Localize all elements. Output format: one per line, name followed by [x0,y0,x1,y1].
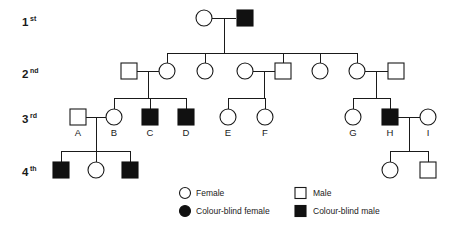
individual-g1-affected-male-symbol[interactable] [237,10,253,26]
individual-D-symbol[interactable] [178,109,194,125]
pedigree-chart: 1 st 2 nd 3 rd 4 th [0,0,463,230]
individual-g2-male-child3-symbol[interactable] [275,63,291,79]
legend-item-colour-blind-female: Colour-blind female [180,206,270,217]
generation-label-3: 3 rd [22,112,37,125]
generation-label-3-number: 3 [22,113,28,125]
legend-item-male: Male [295,188,332,199]
generation-label-1-number: 1 [22,16,29,28]
legend-item-female-label: Female [196,188,225,198]
label-E: E [225,127,231,138]
legend-item-colour-blind-female-label: Colour-blind female [196,206,270,216]
pedigree-individuals [53,10,436,178]
label-C: C [147,127,154,138]
legend: Female Colour-blind female Male Colour-b… [180,188,380,217]
individual-g4-affected-male1-symbol[interactable] [53,162,69,178]
generation-label-4-number: 4 [22,166,29,178]
generation-label-4: 4 th [22,165,37,178]
individual-g4-affected-male2-symbol[interactable] [122,162,138,178]
pedigree-links [61,18,428,162]
individual-g2-female-spouse-mid-symbol[interactable] [237,63,253,79]
individual-g2-male-spouse-right-symbol[interactable] [388,63,404,79]
individual-C-symbol[interactable] [142,109,158,125]
filled-circle-icon [180,206,191,217]
legend-item-colour-blind-male: Colour-blind male [295,206,380,217]
individual-g2-female-child2-symbol[interactable] [197,63,213,79]
individual-g1-female-symbol[interactable] [196,10,212,26]
label-F: F [262,127,268,138]
legend-item-male-label: Male [313,188,332,198]
individual-H-symbol[interactable] [382,109,398,125]
open-square-icon [295,188,306,199]
label-I: I [427,127,430,138]
label-H: H [387,127,394,138]
individual-g4-male3-symbol[interactable] [420,162,436,178]
individual-A-symbol[interactable] [70,109,86,125]
open-circle-icon [180,188,191,199]
generation-label-1-suffix: st [30,15,37,22]
legend-item-female: Female [180,188,225,199]
filled-square-icon [295,206,306,217]
individual-id-labels: A B C D E F G H I [75,127,429,138]
generation-labels: 1 st 2 nd 3 rd 4 th [22,15,39,178]
individual-g2-male-spouse-left-symbol[interactable] [121,63,137,79]
generation-label-1: 1 st [22,15,37,28]
label-D: D [183,127,190,138]
individual-E-symbol[interactable] [220,109,236,125]
label-B: B [111,127,117,138]
individual-g4-female1-symbol[interactable] [88,162,104,178]
individual-g2-female-child1-symbol[interactable] [159,63,175,79]
label-A: A [75,127,82,138]
individual-I-symbol[interactable] [420,109,436,125]
generation-label-3-suffix: rd [30,112,37,119]
individual-G-symbol[interactable] [345,109,361,125]
label-G: G [349,127,356,138]
generation-label-4-suffix: th [30,165,37,172]
legend-item-colour-blind-male-label: Colour-blind male [313,206,380,216]
individual-B-symbol[interactable] [106,109,122,125]
individual-g2-female-child4-symbol[interactable] [312,63,328,79]
generation-label-2-suffix: nd [30,67,39,74]
generation-label-2: 2 nd [22,67,39,80]
individual-g2-female-child5-symbol[interactable] [349,63,365,79]
individual-g4-female2-symbol[interactable] [382,162,398,178]
individual-F-symbol[interactable] [257,109,273,125]
generation-label-2-number: 2 [22,68,28,80]
